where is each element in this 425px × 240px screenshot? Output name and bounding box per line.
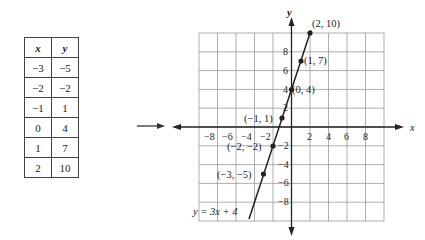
point-2-10 [307,30,312,35]
x-tick: −8 [204,131,215,142]
point-label: (−2, −2) [227,141,262,153]
point-labels: (2, 10) (1, 7) (0, 4) (−1, 1) (−2, −2) (… [217,18,340,181]
y-tick: 6 [283,65,288,76]
x-tick: 6 [344,131,349,142]
point-label: (2, 10) [312,18,340,30]
graph: x y −8 −6 −4 −2 2 4 6 8 8 6 4 2 −2 −4 −6… [0,0,425,240]
y-tick: 4 [283,84,288,95]
y-tick: −6 [278,177,289,188]
point-label: (1, 7) [304,55,327,67]
y-tick: −2 [278,140,289,151]
right-arrow-icon [137,123,165,129]
x-tick: 8 [363,131,368,142]
y-axis-label: y [285,7,292,18]
point-label: (−3, −5) [217,169,252,181]
point-label: (−1, 1) [244,113,273,125]
equation-label: y = 3x + 4 [192,206,238,217]
y-tick: 8 [283,46,288,57]
x-tick: 4 [326,131,331,142]
point-1-7 [298,58,303,63]
x-tick: −2 [260,131,271,142]
x-tick: 2 [307,131,312,142]
point-neg1-1 [279,115,284,120]
x-axis-label: x [409,122,415,133]
y-tick: −4 [278,159,289,170]
point-label: (0, 4) [292,84,315,96]
point-neg2-neg2 [270,143,275,148]
y-tick: −8 [278,196,289,207]
point-neg3-neg5 [261,171,266,176]
